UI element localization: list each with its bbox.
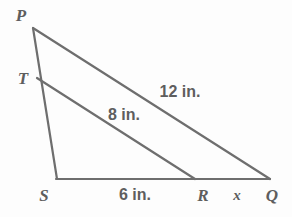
figure-canvas	[0, 0, 292, 217]
vertex-label-S: S	[39, 187, 48, 204]
vertex-label-T: T	[18, 70, 28, 87]
triangle-lines	[33, 28, 270, 179]
vertex-label-R: R	[197, 187, 208, 204]
vertex-label-P: P	[16, 7, 26, 24]
measure-label-PQ: 12 in.	[160, 84, 201, 100]
geometry-figure: P T S R Q 12 in. 8 in. 6 in. x	[0, 0, 292, 217]
measure-label-TR: 8 in.	[108, 107, 140, 123]
measure-label-SR: 6 in.	[119, 187, 151, 203]
measure-label-RQ: x	[233, 188, 241, 203]
vertex-label-Q: Q	[266, 187, 278, 204]
segment-PS	[33, 28, 57, 179]
segment-PQ	[33, 28, 270, 179]
